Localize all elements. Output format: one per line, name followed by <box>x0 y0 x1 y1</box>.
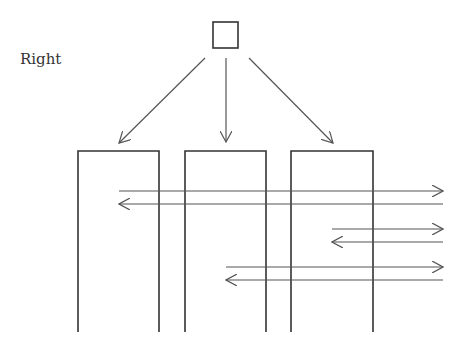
root-node <box>213 22 238 48</box>
tree-arrow <box>119 58 205 143</box>
diagram-canvas <box>0 0 460 351</box>
col-1 <box>78 151 159 332</box>
tree-arrows <box>119 58 333 143</box>
col-2 <box>185 151 266 332</box>
message-arrows <box>119 191 443 280</box>
columns <box>78 151 373 332</box>
root-square <box>213 22 238 48</box>
tree-arrow <box>249 58 333 143</box>
